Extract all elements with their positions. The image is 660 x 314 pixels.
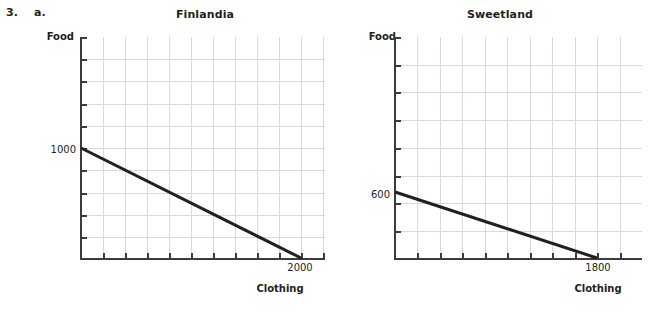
y-tick-value-1000: 1000 [36, 144, 76, 155]
ppf-line-chart [81, 37, 325, 259]
ppf-line [395, 192, 597, 258]
ppf-line-chart [395, 37, 642, 259]
chart-sweetland: Sweetland Food Clothing 600 1800 [340, 0, 660, 314]
chart-title: Sweetland [400, 8, 600, 21]
x-axis-label: Clothing [558, 283, 638, 294]
x-axis-label: Clothing [240, 283, 320, 294]
worksheet-page: 3. a. Finlandia Food Clothing 1000 2000 [0, 0, 660, 314]
ppf-line [81, 148, 301, 258]
y-axis-label: Food [26, 31, 74, 42]
chart-finlandia: Finlandia Food Clothing 1000 2000 [0, 0, 340, 314]
y-tick-value-600: 600 [352, 189, 390, 200]
plot-area [395, 37, 642, 259]
x-tick-value-1800: 1800 [578, 262, 618, 273]
chart-title: Finlandia [110, 8, 300, 21]
plot-area [81, 37, 325, 259]
y-axis-label: Food [350, 31, 396, 42]
x-tick-value-2000: 2000 [280, 262, 320, 273]
